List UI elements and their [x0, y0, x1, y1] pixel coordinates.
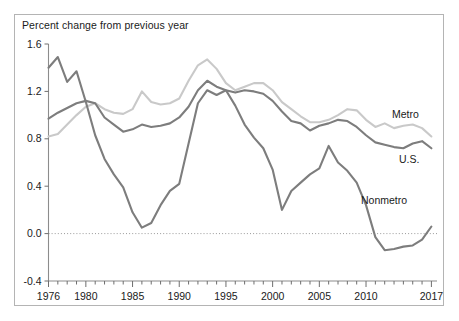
line-chart-plot: 1.61.20.80.40.0-0.4197619801985199019952… — [0, 0, 459, 321]
y-axis-tick-label: 1.6 — [27, 38, 42, 50]
y-axis-tick-label: 1.2 — [27, 85, 42, 97]
x-axis-tick-label: 1990 — [168, 290, 192, 302]
y-axis-tick-label: -0.4 — [23, 275, 41, 287]
chart-figure: Percent change from previous year 1.61.2… — [0, 0, 459, 321]
x-axis-tick-label: 1985 — [121, 290, 145, 302]
y-axis-tick-label: 0.8 — [27, 132, 42, 144]
series-label-nonmetro: Nonmetro — [361, 194, 407, 206]
y-axis-tick-label: 0.4 — [27, 180, 42, 192]
x-axis-tick-label: 2010 — [354, 290, 378, 302]
series-label-metro: Metro — [392, 108, 419, 120]
x-axis-tick-label: 2005 — [308, 290, 332, 302]
x-axis-tick-label: 1976 — [37, 290, 61, 302]
series-label-us: U.S. — [399, 153, 419, 165]
y-axis-tick-label: 0.0 — [27, 227, 42, 239]
x-axis-tick-label: 2017 — [420, 290, 444, 302]
x-axis-tick-label: 1995 — [214, 290, 238, 302]
x-axis-tick-label: 2000 — [261, 290, 285, 302]
series-line-nonmetro — [49, 57, 432, 250]
x-axis-tick-label: 1980 — [74, 290, 98, 302]
series-line-metro — [49, 59, 432, 136]
